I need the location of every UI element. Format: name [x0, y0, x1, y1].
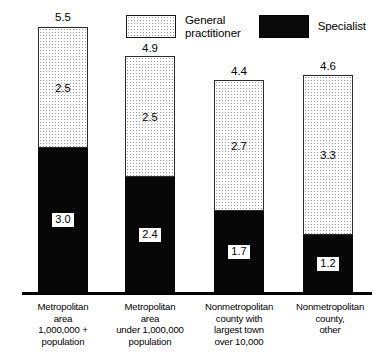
- bar-4-segment-general-practitioner: 3.3: [303, 75, 353, 235]
- bar-4-specialist-value: 1.2: [317, 257, 338, 271]
- bar-4-segment-specialist: 1.2: [303, 235, 353, 293]
- category-label-3: Nonmetropolitan county with largest town…: [194, 301, 284, 347]
- bar-4: 3.3 1.2: [303, 75, 353, 293]
- x-axis-category-labels: Metropolitan area 1,000,000 + population…: [0, 301, 390, 361]
- bar-total-label-3: 4.4: [214, 65, 264, 77]
- bar-1-segment-general-practitioner: 2.5: [38, 27, 88, 148]
- category-label-2: Metropolitan area under 1,000,000 popula…: [107, 301, 193, 347]
- bar-1: 2.5 3.0: [38, 27, 88, 293]
- bar-3: 2.7 1.7: [214, 80, 264, 293]
- bar-2-segment-general-practitioner: 2.5: [125, 56, 175, 177]
- bar-2: 2.5 2.4: [125, 56, 175, 293]
- bar-3-specialist-value: 1.7: [228, 245, 249, 259]
- x-axis-line: [22, 292, 372, 295]
- bar-total-label-4: 4.6: [303, 60, 353, 72]
- stacked-bar-chart: General practitioner Specialist 5.5 2.5 …: [0, 0, 390, 361]
- bar-3-segment-specialist: 1.7: [214, 211, 264, 293]
- category-label-1: Metropolitan area 1,000,000 + population: [20, 301, 106, 347]
- bar-1-specialist-value: 3.0: [52, 213, 73, 227]
- plot-area: 5.5 2.5 3.0 4.9 2.5 2.4 4.4 2.7: [0, 0, 390, 296]
- bar-1-segment-specialist: 3.0: [38, 148, 88, 293]
- bar-1-gp-value: 2.5: [55, 82, 70, 94]
- bar-total-label-2: 4.9: [125, 42, 175, 54]
- bar-2-segment-specialist: 2.4: [125, 177, 175, 293]
- bar-4-gp-value: 3.3: [320, 149, 335, 161]
- bar-2-gp-value: 2.5: [142, 111, 157, 123]
- bar-total-label-1: 5.5: [38, 11, 88, 23]
- bar-2-specialist-value: 2.4: [139, 228, 160, 242]
- bar-3-segment-general-practitioner: 2.7: [214, 80, 264, 211]
- category-label-4: Nonmetropolitan county, other: [285, 301, 375, 336]
- bar-3-gp-value: 2.7: [231, 140, 246, 152]
